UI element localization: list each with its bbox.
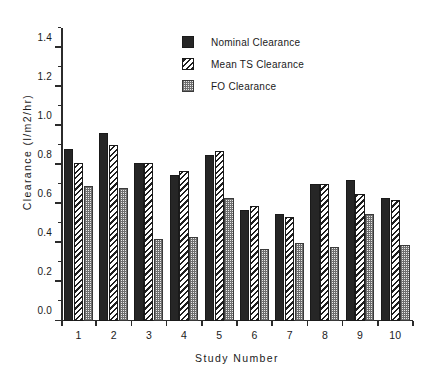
legend-label: Nominal Clearance bbox=[211, 37, 300, 48]
y-tick-major bbox=[55, 46, 61, 48]
x-tick bbox=[61, 321, 63, 326]
x-tick bbox=[95, 321, 97, 326]
bar bbox=[346, 180, 355, 321]
bar bbox=[320, 184, 329, 321]
bar bbox=[310, 184, 319, 321]
x-tick-label: 10 bbox=[389, 330, 401, 341]
y-tick-label: 1.4 bbox=[37, 33, 52, 43]
x-tick-label: 4 bbox=[181, 330, 187, 341]
x-tick-label: 8 bbox=[322, 330, 328, 341]
bar bbox=[170, 175, 179, 322]
legend-swatch-icon bbox=[182, 80, 194, 92]
bar bbox=[215, 151, 224, 321]
x-tick bbox=[236, 321, 238, 326]
chart-legend: Nominal ClearanceMean TS ClearanceFO Cle… bbox=[182, 31, 304, 97]
y-tick-label: 0.8 bbox=[37, 150, 52, 160]
y-tick-minor bbox=[58, 66, 62, 68]
chart-figure: Clearance (l/m2/hr) 0.00.20.40.60.81.01.… bbox=[0, 0, 430, 377]
bar bbox=[381, 198, 390, 321]
y-tick-major bbox=[55, 85, 61, 87]
y-tick-label: 0.0 bbox=[37, 306, 52, 316]
y-axis-title: Clearance (l/m2/hr) bbox=[21, 67, 33, 237]
x-tick bbox=[412, 321, 414, 326]
x-tick-label: 3 bbox=[146, 330, 152, 341]
legend-item: Mean TS Clearance bbox=[182, 53, 304, 75]
y-tick-major bbox=[55, 241, 61, 243]
y-tick-label: 1.0 bbox=[37, 111, 52, 121]
bar bbox=[240, 210, 249, 321]
x-tick bbox=[307, 321, 309, 326]
x-tick bbox=[271, 321, 273, 326]
y-tick-minor bbox=[58, 300, 62, 302]
bar bbox=[391, 200, 400, 321]
x-tick-label: 5 bbox=[216, 330, 222, 341]
x-tick-label: 2 bbox=[111, 330, 117, 341]
x-tick-label: 7 bbox=[287, 330, 293, 341]
bar bbox=[84, 186, 93, 321]
x-tick bbox=[201, 321, 203, 326]
y-tick-minor bbox=[58, 27, 62, 29]
legend-item: FO Clearance bbox=[182, 75, 304, 97]
y-tick-label: 0.4 bbox=[37, 228, 52, 238]
y-tick-major bbox=[55, 124, 61, 126]
y-axis-line bbox=[61, 28, 63, 321]
y-tick-label: 0.6 bbox=[37, 189, 52, 199]
y-tick-label: 0.2 bbox=[37, 267, 52, 277]
legend-label: FO Clearance bbox=[211, 81, 276, 92]
y-tick-label: 1.2 bbox=[37, 72, 52, 82]
bar bbox=[179, 171, 188, 321]
y-tick-minor bbox=[58, 183, 62, 185]
bar bbox=[189, 237, 198, 321]
y-tick-minor bbox=[58, 105, 62, 107]
bar bbox=[285, 217, 294, 321]
legend-label: Mean TS Clearance bbox=[211, 59, 304, 70]
clipped-caption-strip bbox=[0, 371, 430, 377]
bar bbox=[109, 145, 118, 321]
y-tick-minor bbox=[58, 144, 62, 146]
bar bbox=[74, 163, 83, 321]
x-axis-title-text: Study Number bbox=[195, 352, 279, 364]
bar bbox=[330, 247, 339, 321]
bar bbox=[154, 239, 163, 321]
bar bbox=[99, 133, 108, 321]
x-tick-label: 1 bbox=[75, 330, 81, 341]
bar bbox=[119, 188, 128, 321]
bar bbox=[365, 214, 374, 321]
x-axis-title: Study Number bbox=[61, 352, 413, 364]
y-tick-minor bbox=[58, 222, 62, 224]
y-tick-major bbox=[55, 280, 61, 282]
bar bbox=[295, 243, 304, 321]
x-tick bbox=[166, 321, 168, 326]
bar bbox=[144, 163, 153, 321]
x-tick bbox=[377, 321, 379, 326]
x-tick-label: 6 bbox=[251, 330, 257, 341]
x-tick bbox=[342, 321, 344, 326]
bar bbox=[64, 149, 73, 321]
y-axis-title-text: Clearance (l/m2/hr) bbox=[21, 94, 33, 210]
bar bbox=[275, 214, 284, 321]
bar bbox=[250, 206, 259, 321]
bar bbox=[260, 249, 269, 321]
bar bbox=[400, 245, 409, 321]
legend-swatch-icon bbox=[182, 36, 194, 48]
legend-item: Nominal Clearance bbox=[182, 31, 304, 53]
x-tick-label: 9 bbox=[357, 330, 363, 341]
legend-swatch-icon bbox=[182, 58, 194, 70]
bar bbox=[205, 155, 214, 321]
y-tick-major bbox=[55, 163, 61, 165]
y-tick-major bbox=[55, 202, 61, 204]
bar bbox=[355, 194, 364, 321]
x-tick bbox=[131, 321, 133, 326]
y-tick-minor bbox=[58, 261, 62, 263]
bar bbox=[134, 163, 143, 321]
bar bbox=[224, 198, 233, 321]
